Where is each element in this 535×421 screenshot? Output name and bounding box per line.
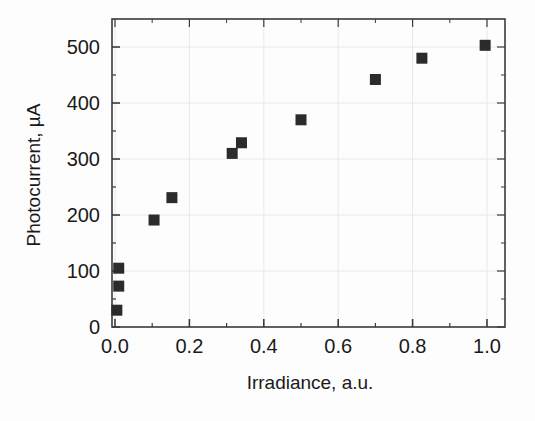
y-tick-label: 0 [89,316,100,338]
y-tick-label: 200 [67,204,100,226]
y-axis-title: Photocurrent, µA [23,103,44,246]
y-tick-label: 400 [67,92,100,114]
x-tick-label: 0.8 [399,335,427,357]
x-tick-label: 1.0 [473,335,501,357]
x-axis-title: Irradiance, a.u. [247,372,374,393]
data-point-marker [227,148,238,159]
data-point-marker [113,263,124,274]
data-point-marker [111,305,122,316]
x-tick-label: 0.6 [324,335,352,357]
chart-page: 0.00.20.40.60.81.0 0100200300400500 Irra… [0,0,535,421]
x-tick-label: 0.0 [101,335,129,357]
data-point-marker [296,114,307,125]
data-point-marker [113,281,124,292]
y-tick-label: 500 [67,36,100,58]
data-point-marker [416,53,427,64]
data-point-marker [480,40,491,51]
data-point-marker [149,215,160,226]
data-point-marker [370,74,381,85]
data-point-marker [236,137,247,148]
y-tick-label: 100 [67,260,100,282]
y-tick-label: 300 [67,148,100,170]
data-point-marker [166,192,177,203]
x-tick-label: 0.4 [250,335,278,357]
scatter-chart: 0.00.20.40.60.81.0 0100200300400500 Irra… [0,0,535,421]
x-tick-label: 0.2 [175,335,203,357]
